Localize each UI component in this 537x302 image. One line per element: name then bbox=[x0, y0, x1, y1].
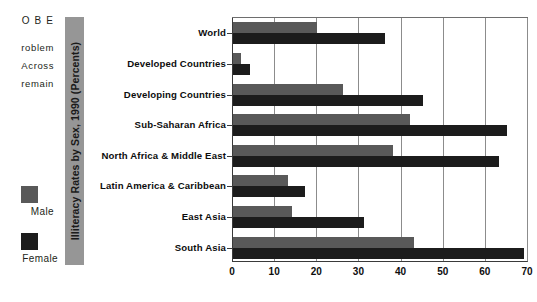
bar-female bbox=[233, 33, 385, 44]
category-label: Sub-Saharan Africa bbox=[135, 119, 226, 130]
bar-male bbox=[233, 206, 292, 217]
value-tick-label: 40 bbox=[395, 266, 406, 277]
bar-female bbox=[233, 64, 250, 75]
category-tick bbox=[227, 95, 232, 96]
category-label: Developing Countries bbox=[124, 88, 226, 99]
gridline-70 bbox=[527, 18, 528, 261]
bar-male bbox=[233, 22, 317, 33]
category-tick bbox=[227, 156, 232, 157]
category-label: Developed Countries bbox=[127, 57, 226, 68]
axis-title-text: Illiteracy Rates by Sex, 1990 (Percents) bbox=[69, 42, 81, 240]
bar-female bbox=[233, 125, 507, 136]
bar-chart: WorldDeveloped CountriesDeveloping Count… bbox=[86, 17, 537, 302]
category-tick bbox=[227, 64, 232, 65]
value-axis-labels: 010203040506070 bbox=[232, 266, 528, 286]
value-tick-label: 30 bbox=[353, 266, 364, 277]
category-label: World bbox=[198, 27, 226, 38]
axis-title-band: Illiteracy Rates by Sex, 1990 (Percents) bbox=[65, 17, 84, 265]
left-text-line-1: roblem bbox=[21, 42, 54, 53]
bar-female bbox=[233, 248, 524, 259]
bar-male bbox=[233, 84, 343, 95]
category-label: Latin America & Caribbean bbox=[100, 180, 226, 191]
bar-male bbox=[233, 145, 393, 156]
bar-female bbox=[233, 95, 423, 106]
legend-item-male: Male bbox=[0, 186, 58, 217]
category-tick bbox=[227, 217, 232, 218]
plot-area bbox=[232, 17, 528, 262]
category-label: South Asia bbox=[175, 241, 226, 252]
legend-label-female: Female bbox=[0, 253, 58, 264]
left-text-heading: O B E bbox=[22, 15, 54, 26]
category-label: North Africa & Middle East bbox=[101, 149, 226, 160]
bar-female bbox=[233, 217, 364, 228]
category-tick bbox=[227, 125, 232, 126]
gridline-50 bbox=[443, 18, 444, 261]
bar-female bbox=[233, 186, 305, 197]
value-tick-label: 10 bbox=[269, 266, 280, 277]
legend-label-male: Male bbox=[0, 206, 58, 217]
left-text-line-2: Across bbox=[21, 60, 54, 71]
category-tick bbox=[227, 248, 232, 249]
male-swatch-icon bbox=[21, 186, 38, 203]
bar-male bbox=[233, 175, 288, 186]
category-axis-labels: WorldDeveloped CountriesDeveloping Count… bbox=[86, 17, 232, 262]
category-tick bbox=[227, 186, 232, 187]
bar-female bbox=[233, 156, 499, 167]
bar-male bbox=[233, 53, 241, 64]
category-tick bbox=[227, 33, 232, 34]
bar-male bbox=[233, 237, 414, 248]
value-tick-label: 20 bbox=[311, 266, 322, 277]
chart-legend: Male Female bbox=[0, 186, 58, 264]
gridline-40 bbox=[401, 18, 402, 261]
category-label: East Asia bbox=[182, 211, 226, 222]
value-tick-label: 70 bbox=[521, 266, 532, 277]
legend-item-female: Female bbox=[0, 233, 58, 264]
female-swatch-icon bbox=[21, 233, 38, 250]
gridline-60 bbox=[485, 18, 486, 261]
value-tick-label: 60 bbox=[479, 266, 490, 277]
left-text-line-3: remain bbox=[21, 78, 54, 89]
bar-male bbox=[233, 114, 410, 125]
value-tick-label: 50 bbox=[437, 266, 448, 277]
value-tick-label: 0 bbox=[229, 266, 235, 277]
